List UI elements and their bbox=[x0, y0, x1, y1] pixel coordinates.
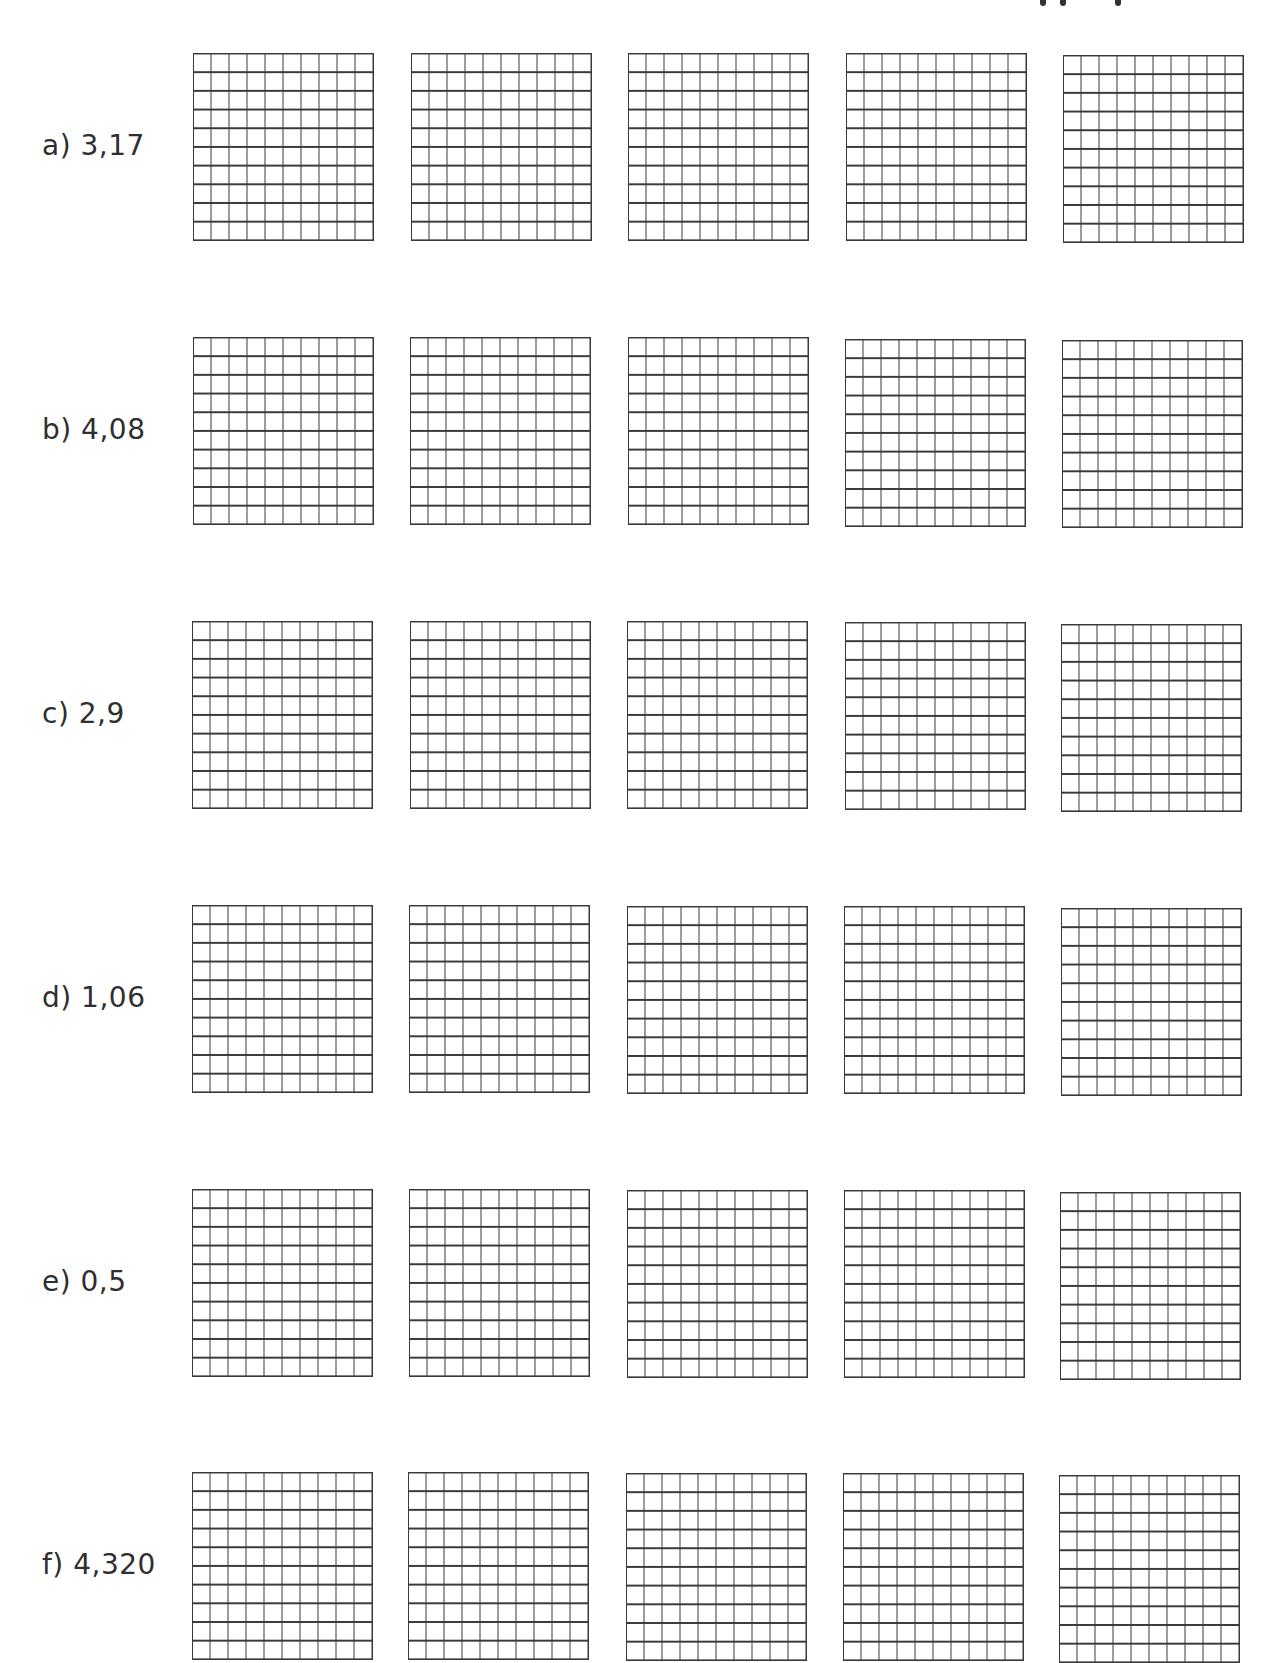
cut-off-heading-fragment bbox=[1040, 0, 1130, 6]
hundred-grid[interactable] bbox=[1062, 340, 1243, 528]
exercise-label: a) 3,17 bbox=[42, 129, 145, 163]
hundred-grid[interactable] bbox=[192, 621, 373, 809]
hundred-grid[interactable] bbox=[628, 337, 809, 525]
exercise-row-b: b) 4,08 bbox=[0, 337, 1271, 527]
hundred-grid[interactable] bbox=[411, 53, 592, 241]
hundred-grid[interactable] bbox=[1061, 908, 1242, 1096]
hundred-grid[interactable] bbox=[626, 1473, 807, 1661]
hundred-grid[interactable] bbox=[627, 906, 808, 1094]
exercise-label: d) 1,06 bbox=[42, 981, 145, 1015]
hundred-grid[interactable] bbox=[193, 53, 374, 241]
hundred-grid[interactable] bbox=[193, 337, 374, 525]
hundred-grid[interactable] bbox=[844, 906, 1025, 1094]
exercise-row-a: a) 3,17 bbox=[0, 53, 1271, 243]
hundred-grid[interactable] bbox=[846, 53, 1027, 241]
exercise-label: b) 4,08 bbox=[42, 413, 145, 447]
hundred-grid[interactable] bbox=[627, 1190, 808, 1378]
hundred-grid[interactable] bbox=[192, 905, 373, 1093]
hundred-grid[interactable] bbox=[845, 339, 1026, 527]
exercise-row-d: d) 1,06 bbox=[0, 905, 1271, 1095]
hundred-grid[interactable] bbox=[844, 1190, 1025, 1378]
hundred-grid[interactable] bbox=[410, 337, 591, 525]
exercise-label: c) 2,9 bbox=[42, 697, 125, 731]
hundred-grid[interactable] bbox=[192, 1472, 373, 1660]
exercise-label: e) 0,5 bbox=[42, 1265, 127, 1299]
hundred-grid[interactable] bbox=[628, 53, 809, 241]
exercise-row-f: f) 4,320 bbox=[0, 1472, 1271, 1662]
hundred-grid[interactable] bbox=[845, 622, 1026, 810]
hundred-grid[interactable] bbox=[409, 1189, 590, 1377]
hundred-grid[interactable] bbox=[1059, 1475, 1240, 1663]
exercise-label: f) 4,320 bbox=[42, 1548, 156, 1582]
hundred-grid[interactable] bbox=[843, 1473, 1024, 1661]
hundred-grid[interactable] bbox=[1060, 1192, 1241, 1380]
hundred-grid[interactable] bbox=[410, 621, 591, 809]
hundred-grid[interactable] bbox=[1063, 55, 1244, 243]
hundred-grid[interactable] bbox=[408, 1472, 589, 1660]
exercise-row-e: e) 0,5 bbox=[0, 1189, 1271, 1379]
hundred-grid[interactable] bbox=[627, 621, 808, 809]
hundred-grid[interactable] bbox=[192, 1189, 373, 1377]
exercise-row-c: c) 2,9 bbox=[0, 621, 1271, 811]
hundred-grid[interactable] bbox=[1061, 624, 1242, 812]
hundred-grid[interactable] bbox=[409, 905, 590, 1093]
